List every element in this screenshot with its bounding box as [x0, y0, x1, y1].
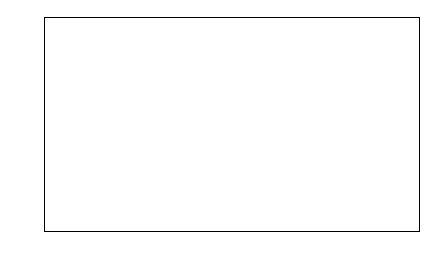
- design-starts-area-chart: [0, 0, 428, 267]
- data-label-layer: [0, 0, 428, 267]
